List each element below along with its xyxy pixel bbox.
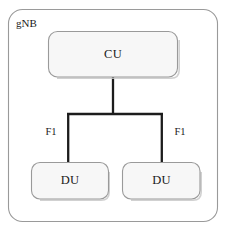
- gnb-frame-label: gNB: [16, 17, 37, 29]
- diagram-canvas: gNB CU F1 F1 DU DU: [0, 0, 226, 231]
- f1-left-label: F1: [45, 126, 56, 137]
- cu-box-label: CU: [104, 47, 122, 61]
- gnb-architecture-diagram: gNB CU F1 F1 DU DU: [0, 0, 226, 231]
- f1-right-label: F1: [174, 126, 185, 137]
- du-right-box-label: DU: [152, 173, 171, 187]
- du-left-box-label: DU: [61, 173, 80, 187]
